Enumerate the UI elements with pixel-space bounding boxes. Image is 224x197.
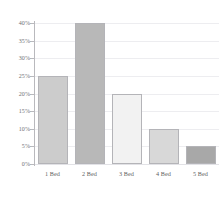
y-tick-label-15: 15% [4,108,30,114]
x-axis-tick-labels: 1 Bed 2 Bed 3 Bed 4 Bed 5 Bed [34,170,219,184]
y-tick-label-5: 5% [4,143,30,149]
y-axis-tick-labels: 40% 35% 30% 25% 20% 15% 10% 5% 0% [0,0,30,197]
bars-layer [34,23,219,164]
x-tick-label-3-bed: 3 Bed [108,170,145,178]
y-tick-label-40: 40% [4,20,30,26]
x-tick-label-5-bed: 5 Bed [182,170,219,178]
x-tick-label-2-bed: 2 Bed [71,170,108,178]
bar-5-bed[interactable] [186,146,216,164]
bar-chart: 40% 35% 30% 25% 20% 15% 10% 5% 0% 1 Bed … [0,0,224,197]
bar-3-bed[interactable] [112,94,142,165]
bar-4-bed[interactable] [149,129,179,164]
x-tick-label-4-bed: 4 Bed [145,170,182,178]
y-tick-label-0: 0% [4,161,30,167]
x-tick-label-1-bed: 1 Bed [34,170,71,178]
bar-1-bed[interactable] [38,76,68,164]
y-tick-label-30: 30% [4,55,30,61]
y-tick-label-25: 25% [4,73,30,79]
y-tick-label-35: 35% [4,38,30,44]
bar-2-bed[interactable] [75,23,105,164]
y-tick-label-20: 20% [4,91,30,97]
y-tick-label-10: 10% [4,126,30,132]
y-tick-mark-0 [30,164,34,165]
gridline-0 [34,164,219,165]
